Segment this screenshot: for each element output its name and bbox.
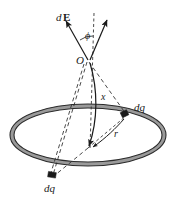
label-dE-d: d <box>56 11 62 23</box>
label-x: x <box>100 91 106 102</box>
dq-marker-bottom <box>48 171 57 178</box>
sightline-to-bottom-dq-secondary <box>50 64 84 176</box>
axis-component-arrow <box>90 20 107 60</box>
ring-charge-field-diagram: d E ϕ O x r dq dq <box>0 0 178 203</box>
label-dq-bottom: dq <box>44 182 56 194</box>
radius-arrow <box>93 119 124 147</box>
sightline-to-bottom-dq <box>53 62 87 175</box>
ring-band-fill <box>10 104 166 166</box>
charged-ring <box>10 104 166 166</box>
label-dE-E: E <box>63 11 70 23</box>
label-r: r <box>114 128 118 139</box>
label-phi: ϕ <box>85 30 90 41</box>
label-dq-right: dq <box>134 101 146 113</box>
label-O: O <box>76 54 84 66</box>
diagram-canvas: d E ϕ O x r dq dq <box>0 0 178 203</box>
ring-inner-edge <box>14 108 162 162</box>
ring-center-to-right-dq <box>88 116 126 148</box>
